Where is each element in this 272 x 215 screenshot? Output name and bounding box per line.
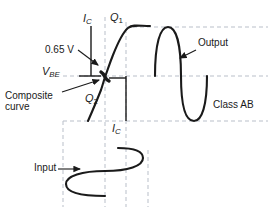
label-bias-voltage: 0.65 V (45, 45, 74, 56)
class-ab-transfer-characteristic-figure: IC Q1 0.65 V VBE Composite curve Q2 IC O… (0, 0, 272, 215)
leader-composite-curve (62, 80, 99, 92)
composite-transfer-curve (88, 26, 150, 122)
annotation-leaders (58, 50, 196, 169)
label-vbe-axis: VBE (42, 66, 60, 79)
label-composite-curve-line1: Composite (5, 91, 53, 102)
leader-output (180, 50, 196, 58)
label-composite-curve-line2: curve (5, 102, 53, 113)
label-output: Output (198, 38, 228, 49)
label-composite-curve: Composite curve (5, 91, 53, 112)
label-input: Input (34, 163, 56, 174)
label-ic-bottom-axis: IC (112, 123, 121, 136)
label-ic-top-axis: IC (83, 13, 92, 26)
gridlines (63, 17, 268, 207)
label-q1: Q1 (110, 12, 123, 25)
label-q2: Q2 (85, 93, 98, 106)
label-class-ab: Class AB (213, 100, 254, 111)
curve-q1-branch (105, 26, 150, 78)
leader-065v (78, 50, 98, 65)
